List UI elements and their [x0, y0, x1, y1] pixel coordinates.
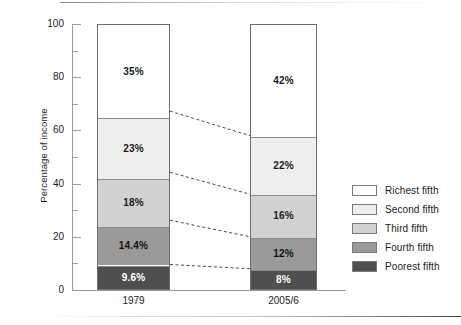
- segment-divider: [98, 266, 169, 267]
- legend-swatch-icon: [352, 223, 377, 234]
- y-axis-title: Percentage of income: [38, 76, 49, 236]
- x-tick-label-1979: 1979: [97, 295, 170, 306]
- segment-label: 9.6%: [122, 273, 146, 283]
- segment-2005-richest[interactable]: 42%: [251, 25, 316, 137]
- legend-swatch-icon: [352, 185, 377, 196]
- y-tick-50: [72, 157, 78, 158]
- y-tick-label-60: 60: [38, 124, 64, 135]
- legend-label: Fourth fifth: [385, 242, 434, 253]
- legend-swatch-icon: [352, 242, 377, 253]
- x-tick-label-2005-6: 2005/6: [246, 295, 321, 306]
- legend-swatch-icon: [352, 204, 377, 215]
- segment-label: 23%: [123, 144, 144, 154]
- legend-label: Second fifth: [385, 204, 439, 215]
- y-tick-10: [72, 263, 78, 264]
- y-tick-label-100: 100: [38, 18, 64, 29]
- legend-swatch-icon: [352, 261, 377, 272]
- segment-divider: [251, 238, 316, 239]
- segment-label: 35%: [123, 67, 144, 77]
- segment-1979-poorest[interactable]: 9.6%: [98, 266, 169, 291]
- segment-divider: [251, 137, 316, 138]
- y-tick-0: [72, 290, 81, 291]
- page-top-edge-line: [60, 2, 461, 3]
- segment-label: 16%: [273, 211, 294, 221]
- segment-label: 14.4%: [119, 241, 148, 251]
- segment-label: 12%: [273, 249, 294, 259]
- legend-item-second-fifth[interactable]: Second fifth: [352, 200, 440, 219]
- bar-2005-6[interactable]: 42% 22% 16% 12% 8%: [250, 24, 317, 290]
- legend-item-fourth-fifth[interactable]: Fourth fifth: [352, 238, 440, 257]
- segment-1979-third[interactable]: 18%: [98, 179, 169, 227]
- bar-1979[interactable]: 35% 23% 18% 14.4% 9.6%: [97, 24, 170, 290]
- y-tick-100: [72, 24, 81, 25]
- legend-item-poorest-fifth[interactable]: Poorest fifth: [352, 257, 440, 276]
- segment-1979-second[interactable]: 23%: [98, 118, 169, 179]
- segment-label: 42%: [273, 76, 294, 86]
- segment-2005-fourth[interactable]: 12%: [251, 238, 316, 270]
- segment-divider: [251, 270, 316, 271]
- y-tick-80: [72, 77, 81, 78]
- segment-2005-poorest[interactable]: 8%: [251, 270, 316, 290]
- segment-2005-third[interactable]: 16%: [251, 195, 316, 238]
- y-tick-label-20: 20: [38, 231, 64, 242]
- segment-divider: [98, 179, 169, 180]
- segment-divider: [98, 118, 169, 119]
- segment-connector-lines: [0, 0, 461, 325]
- segment-label: 22%: [273, 161, 294, 171]
- y-tick-90: [72, 51, 78, 52]
- y-tick-40: [72, 184, 81, 185]
- segment-divider: [98, 227, 169, 228]
- segment-divider: [251, 195, 316, 196]
- legend-item-richest-fifth[interactable]: Richest fifth: [352, 181, 440, 200]
- legend-label: Richest fifth: [385, 185, 439, 196]
- stacked-bar-chart: Percentage of income 100 80 60 40 20 0 3…: [0, 0, 461, 325]
- y-tick-30: [72, 210, 78, 211]
- segment-1979-fourth[interactable]: 14.4%: [98, 227, 169, 265]
- segment-2005-second[interactable]: 22%: [251, 137, 316, 196]
- segment-1979-richest[interactable]: 35%: [98, 25, 169, 118]
- y-tick-label-40: 40: [38, 178, 64, 189]
- legend-label: Third fifth: [385, 223, 428, 234]
- legend: Richest fifth Second fifth Third fifth F…: [352, 181, 440, 276]
- y-tick-60: [72, 130, 81, 131]
- y-tick-70: [72, 104, 78, 105]
- y-tick-label-80: 80: [38, 71, 64, 82]
- y-tick-label-0: 0: [38, 284, 64, 295]
- legend-item-third-fifth[interactable]: Third fifth: [352, 219, 440, 238]
- y-tick-20: [72, 237, 81, 238]
- segment-label: 18%: [123, 198, 144, 208]
- segment-label: 8%: [276, 275, 291, 285]
- page-bottom-edge-line: [40, 316, 461, 317]
- x-axis-baseline: [72, 290, 346, 291]
- legend-label: Poorest fifth: [385, 261, 440, 272]
